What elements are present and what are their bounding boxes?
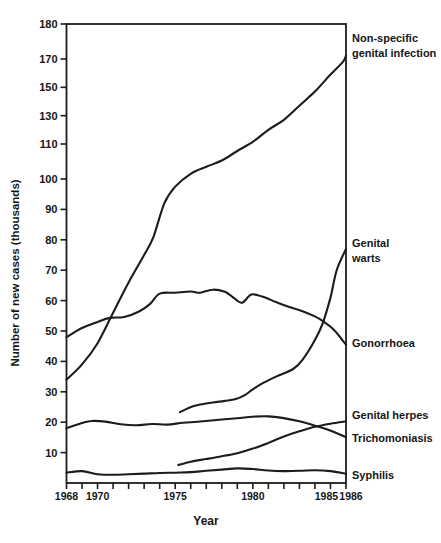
data-curves — [67, 56, 347, 475]
y-tick-label: 80 — [45, 234, 57, 246]
y-tick-label: 40 — [45, 355, 57, 367]
x-axis-title: Year — [193, 514, 219, 528]
curve-trichomoniasis — [67, 416, 347, 437]
x-tick-label: 1985 — [315, 490, 339, 502]
y-tick-label: 20 — [45, 416, 57, 428]
x-tick-label: 1986 — [339, 490, 363, 502]
y-tick-label: 50 — [45, 325, 57, 337]
series-label-genital-warts: warts — [351, 252, 381, 264]
series-label-trichomoniasis: Trichomoniasis — [352, 432, 433, 444]
x-tick-label: 1980 — [241, 490, 265, 502]
curve-genital-warts — [180, 249, 346, 412]
series-label-genital-warts: Genital — [352, 237, 389, 249]
curve-non-specific-genital-infection — [67, 56, 347, 380]
x-tick-label: 1970 — [86, 490, 110, 502]
y-tick-label: 110 — [40, 138, 58, 150]
axis-ticks: 1801701501301101009080706050403020101968… — [39, 18, 363, 502]
y-tick-label: 100 — [39, 173, 57, 185]
series-label-genital-herpes: Genital herpes — [352, 409, 428, 421]
chart-figure: 1801701501301101009080706050403020101968… — [0, 0, 441, 543]
y-tick-label: 30 — [45, 386, 57, 398]
plot-frame — [67, 24, 347, 483]
y-tick-label: 70 — [45, 264, 57, 276]
series-label-gonorrhoea: Gonorrhoea — [352, 337, 416, 349]
series-label-non-specific-genital-infection: genital infection — [352, 47, 437, 59]
y-tick-label: 180 — [39, 18, 57, 30]
y-tick-label: 130 — [39, 110, 57, 122]
y-tick-label: 150 — [39, 81, 57, 93]
series-label-non-specific-genital-infection: Non-specific — [352, 32, 418, 44]
y-axis-title: Number of new cases (thousands) — [9, 179, 21, 366]
sti-new-cases-chart: 1801701501301101009080706050403020101968… — [0, 0, 441, 543]
series-labels: Non-specificgenital infectionGonorrhoeaG… — [351, 32, 437, 481]
curve-gonorrhoea — [67, 290, 347, 345]
y-tick-label: 10 — [45, 447, 57, 459]
y-tick-label: 170 — [39, 53, 57, 65]
y-tick-label: 60 — [45, 295, 57, 307]
y-tick-label: 90 — [45, 203, 57, 215]
series-label-syphilis: Syphilis — [352, 469, 394, 481]
x-tick-label: 1968 — [55, 490, 79, 502]
x-tick-label: 1975 — [164, 490, 188, 502]
plot-border — [67, 24, 347, 483]
curve-syphilis — [67, 468, 347, 474]
